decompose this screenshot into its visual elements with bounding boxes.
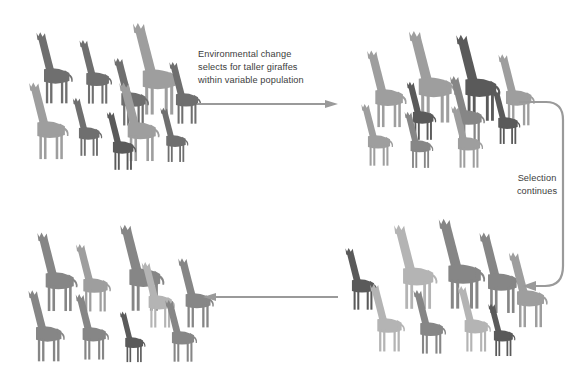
giraffe (444, 104, 485, 170)
giraffe (154, 106, 190, 164)
giraffe (68, 292, 111, 362)
giraffe (158, 298, 199, 364)
giraffe (66, 96, 104, 158)
giraffe (20, 288, 67, 364)
giraffe (100, 110, 138, 172)
giraffe (114, 310, 147, 364)
giraffe (362, 282, 407, 354)
giraffe (354, 102, 395, 168)
giraffe (398, 110, 435, 170)
giraffe (406, 288, 448, 356)
population-group-1 (14, 18, 214, 178)
giraffe (482, 302, 517, 358)
giraffe (20, 80, 71, 162)
arrow-right-curved (500, 96, 579, 301)
arrow-top-right (195, 96, 340, 112)
arrow-bottom-left (200, 289, 340, 305)
population-group-4 (10, 216, 220, 361)
diagram-canvas: Environmental change selects for taller … (0, 0, 579, 371)
top-arrow-label: Environmental change selects for taller … (198, 48, 340, 88)
